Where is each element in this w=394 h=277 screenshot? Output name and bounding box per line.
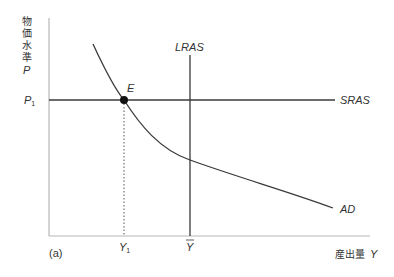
p1-tick-label: P1 [24, 94, 35, 107]
ad-as-diagram: E LRAS SRAS AD P1 物 価 水 準 P Y1 Y (a) 産出量… [0, 0, 394, 277]
x-axis-title: 産出量 [335, 248, 365, 260]
equilibrium-label: E [127, 82, 135, 94]
ad-label: AD [339, 203, 355, 215]
y-axis-title-char-3: 水 [22, 40, 32, 51]
y-axis-title-char-4: 準 [22, 51, 32, 63]
y-axis-symbol: P [23, 64, 31, 76]
y-axis-title-char-2: 価 [22, 27, 32, 39]
lras-label: LRAS [175, 41, 204, 53]
y-bar-tick-label: Y [186, 241, 194, 253]
panel-label: (a) [49, 247, 62, 259]
sras-label: SRAS [340, 94, 371, 106]
x-axis-symbol: Y [370, 248, 378, 260]
ad-curve [93, 44, 333, 208]
y1-tick-label: Y1 [119, 241, 130, 254]
y-axis-title-char-1: 物 [22, 15, 32, 27]
equilibrium-point [120, 96, 128, 104]
